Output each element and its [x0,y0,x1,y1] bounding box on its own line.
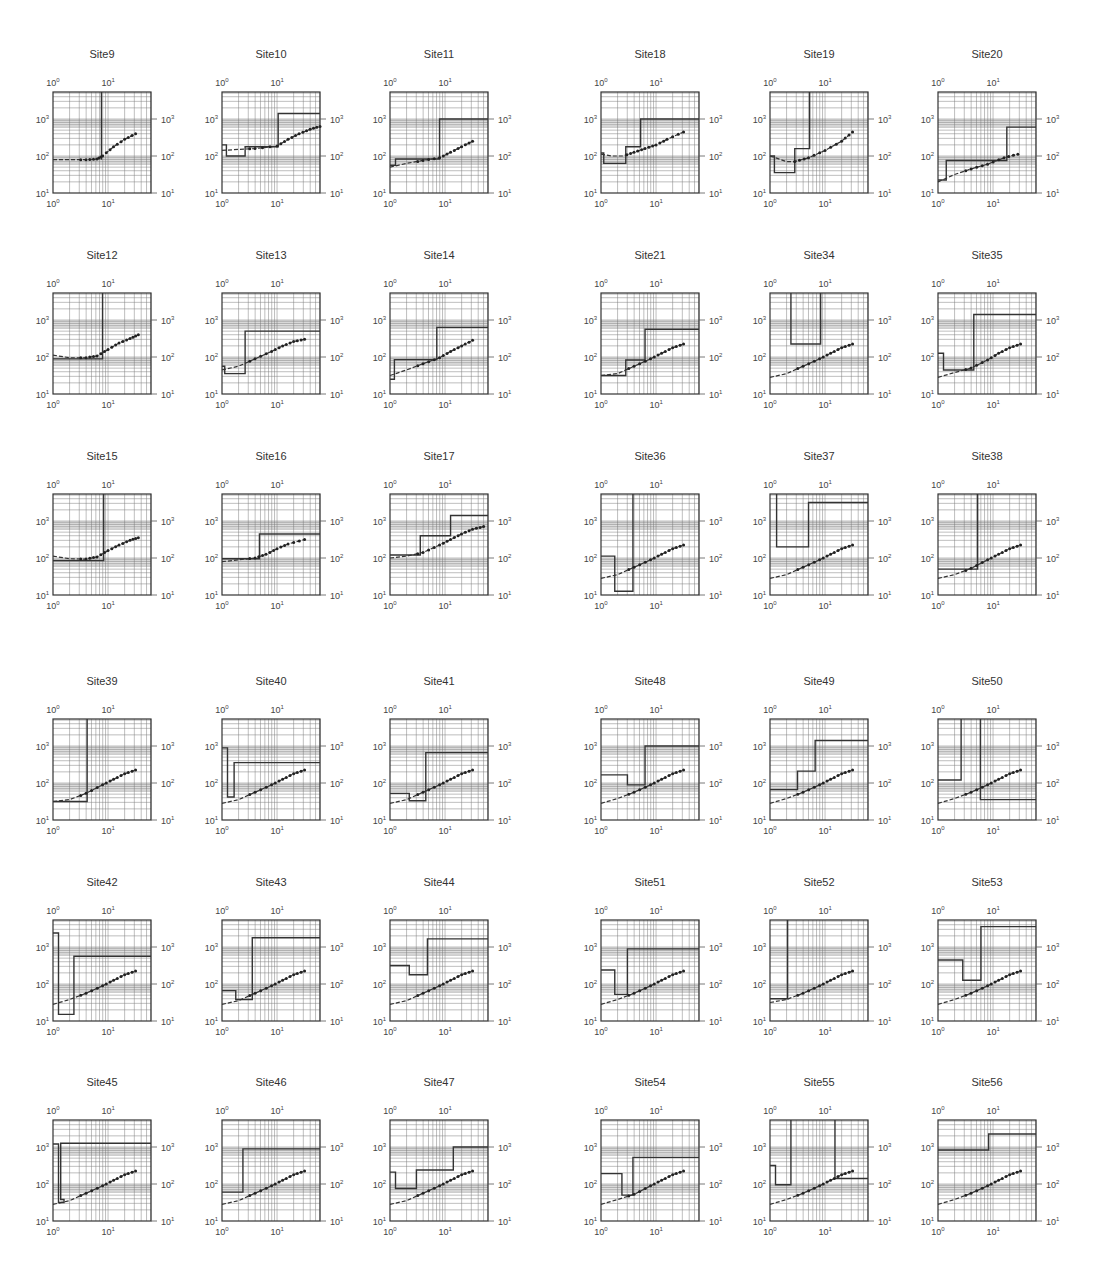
tick-label: 101 [270,600,284,611]
chart-plot: 100101100101101101102102103103 [20,48,190,243]
tick-label: 103 [498,516,512,527]
chart-plot: 100101100101101101102102103103 [737,48,907,243]
tick-label: 101 [649,77,663,88]
chart-plot: 100101100101101101102102103103 [357,48,527,243]
tick-label: 100 [763,399,777,410]
tick-label: 101 [161,815,175,826]
tick-label: 101 [330,389,344,400]
tick-label: 103 [498,741,512,752]
tick-label: 102 [161,979,175,990]
tick-label: 101 [649,1226,663,1237]
tick-label: 101 [438,1026,452,1037]
chart-panel-site44: Site44100101100101101101102102103103 [357,876,527,1071]
tick-label: 101 [373,1016,387,1027]
tick-label: 102 [373,778,387,789]
tick-label: 103 [205,1142,219,1153]
chart-plot: 100101100101101101102102103103 [20,450,190,645]
tick-label: 101 [584,389,598,400]
chart-panel-site13: Site13100101100101101101102102103103 [189,249,359,444]
tick-label: 101 [270,704,284,715]
tick-label: 100 [215,278,229,289]
tick-label: 103 [753,114,767,125]
tick-label: 101 [921,188,935,199]
tick-label: 101 [373,389,387,400]
tick-label: 102 [709,151,723,162]
tick-label: 102 [1046,352,1060,363]
tick-label: 100 [383,1105,397,1116]
tick-label: 101 [709,389,723,400]
tick-label: 100 [763,1026,777,1037]
tick-label: 100 [215,600,229,611]
tick-label: 102 [330,778,344,789]
tick-label: 100 [46,1026,60,1037]
tick-label: 103 [878,1142,892,1153]
tick-label: 103 [330,741,344,752]
chart-plot: 100101100101101101102102103103 [737,1076,907,1264]
tick-label: 100 [215,704,229,715]
tick-label: 102 [161,151,175,162]
tick-label: 101 [438,600,452,611]
chart-plot: 100101100101101101102102103103 [905,249,1075,444]
tick-label: 100 [931,600,945,611]
tick-label: 101 [101,479,115,490]
tick-label: 103 [205,741,219,752]
tick-label: 103 [878,741,892,752]
tick-label: 102 [498,1179,512,1190]
tick-label: 100 [594,600,608,611]
tick-label: 102 [753,1179,767,1190]
tick-label: 101 [438,825,452,836]
tick-label: 102 [373,1179,387,1190]
tick-label: 101 [878,815,892,826]
step-line [601,329,699,375]
tick-label: 101 [709,1016,723,1027]
tick-label: 101 [36,1016,50,1027]
tick-label: 102 [161,778,175,789]
tick-label: 100 [594,825,608,836]
tick-label: 100 [594,704,608,715]
tick-label: 103 [709,114,723,125]
tick-label: 101 [36,188,50,199]
tick-label: 101 [438,1105,452,1116]
tick-label: 102 [878,553,892,564]
tick-label: 100 [763,905,777,916]
tick-label: 101 [270,1105,284,1116]
chart-panel-site15: Site15100101100101101101102102103103 [20,450,190,645]
chart-panel-site45: Site45100101100101101101102102103103 [20,1076,190,1264]
tick-label: 101 [270,1226,284,1237]
tick-label: 100 [931,278,945,289]
tick-label: 101 [753,188,767,199]
chart-plot: 100101100101101101102102103103 [189,876,359,1071]
tick-label: 102 [921,1179,935,1190]
tick-label: 101 [36,1216,50,1227]
tick-label: 102 [205,553,219,564]
tick-label: 103 [709,516,723,527]
tick-label: 100 [383,399,397,410]
tick-label: 101 [270,399,284,410]
chart-plot: 100101100101101101102102103103 [20,876,190,1071]
tick-label: 102 [498,352,512,363]
tick-label: 101 [878,590,892,601]
chart-panel-site10: Site10100101100101101101102102103103 [189,48,359,243]
tick-label: 101 [986,1226,1000,1237]
tick-label: 100 [594,479,608,490]
tick-label: 101 [330,1216,344,1227]
chart-plot: 100101100101101101102102103103 [905,876,1075,1071]
tick-label: 100 [763,198,777,209]
step-line [791,293,821,344]
chart-plot: 100101100101101101102102103103 [357,876,527,1071]
tick-label: 100 [931,704,945,715]
tick-label: 103 [205,114,219,125]
tick-label: 101 [878,389,892,400]
tick-label: 100 [763,1226,777,1237]
tick-label: 103 [1046,516,1060,527]
chart-plot: 100101100101101101102102103103 [568,249,738,444]
tick-label: 101 [101,1026,115,1037]
model-curve [601,132,684,156]
tick-label: 101 [330,1016,344,1027]
chart-plot: 100101100101101101102102103103 [568,876,738,1071]
tick-label: 103 [878,516,892,527]
tick-label: 101 [330,815,344,826]
chart-panel-site40: Site40100101100101101101102102103103 [189,675,359,870]
chart-plot: 100101100101101101102102103103 [357,249,527,444]
step-line [222,534,320,559]
